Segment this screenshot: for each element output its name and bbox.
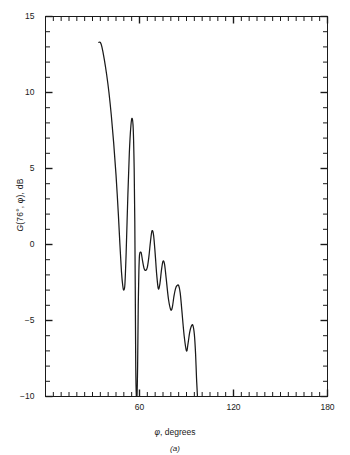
figure-caption-text: (a) bbox=[170, 444, 180, 453]
y-axis-label-g: G bbox=[15, 225, 25, 232]
y-tick-label: 10 bbox=[0, 87, 35, 97]
antenna-pattern-chart bbox=[0, 0, 350, 455]
y-tick-label: 15 bbox=[0, 11, 35, 21]
data-curve bbox=[99, 42, 198, 400]
x-axis-label-rest: , degrees bbox=[160, 427, 195, 437]
figure-caption: (a) bbox=[0, 437, 350, 455]
y-axis-label-unit: , dB bbox=[15, 178, 25, 194]
figure-panel: 151050−5−10 60120180 G(76°, φ), dB φ, de… bbox=[0, 0, 350, 455]
x-tick-label: 180 bbox=[308, 402, 348, 412]
axis-ticks bbox=[46, 17, 328, 397]
x-tick-label: 60 bbox=[120, 402, 160, 412]
y-axis-label: G(76°, φ), dB bbox=[9, 145, 27, 265]
curve-G(76°, φ) bbox=[99, 42, 198, 400]
y-tick-label: −5 bbox=[0, 315, 35, 325]
y-tick-label: −10 bbox=[0, 391, 35, 401]
axes-frame bbox=[46, 17, 328, 397]
x-tick-label: 120 bbox=[214, 402, 254, 412]
y-axis-label-args: (76°, φ) bbox=[15, 194, 25, 224]
